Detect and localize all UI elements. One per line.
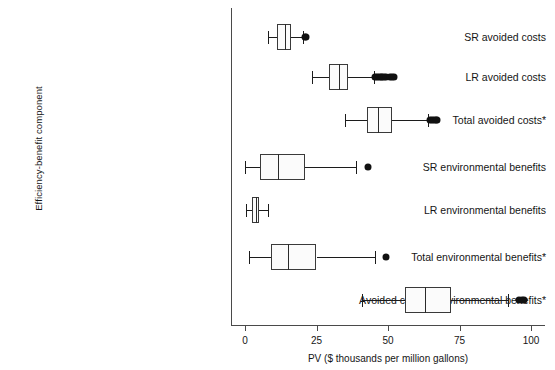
- x-axis-tick-label: 25: [311, 335, 322, 346]
- whisker-low-line: [249, 257, 271, 258]
- whisker-high-line: [348, 77, 374, 78]
- median-line: [285, 24, 286, 50]
- x-axis-tick: [460, 326, 461, 331]
- plot-area: 0255075100 PV ($ thousands per million g…: [231, 8, 545, 326]
- whisker-low-cap: [246, 204, 247, 217]
- whisker-high-line: [392, 120, 428, 121]
- x-axis-tick: [531, 326, 532, 331]
- whisker-low-cap: [312, 71, 313, 84]
- whisker-high-cap: [356, 161, 357, 174]
- whisker-high-line: [305, 167, 356, 168]
- median-line: [339, 64, 340, 90]
- outlier-point: [382, 254, 389, 261]
- whisker-high-line: [259, 210, 268, 211]
- whisker-low-line: [362, 300, 405, 301]
- whisker-high-line: [317, 257, 376, 258]
- outlier-point: [302, 34, 309, 41]
- box-iqr: [405, 287, 450, 313]
- box-plot-figure: Efficiency-benefit component SR avoided …: [0, 0, 555, 370]
- box-iqr: [271, 244, 316, 270]
- outlier-point: [364, 164, 371, 171]
- outlier-point: [434, 117, 441, 124]
- x-axis-tick: [388, 326, 389, 331]
- outlier-point: [520, 297, 527, 304]
- x-axis-title: PV ($ thousands per million gallons): [231, 353, 545, 364]
- whisker-low-line: [312, 77, 329, 78]
- whisker-high-cap: [375, 251, 376, 264]
- y-axis-title: Efficiency-benefit component: [33, 49, 44, 249]
- whisker-high-line: [451, 300, 509, 301]
- x-axis-tick: [245, 326, 246, 331]
- median-line: [425, 287, 426, 313]
- whisker-low-line: [345, 120, 366, 121]
- median-line: [256, 197, 257, 223]
- outlier-point: [390, 74, 397, 81]
- y-axis-line: [231, 8, 232, 326]
- whisker-low-line: [268, 37, 278, 38]
- median-line: [378, 107, 379, 133]
- median-line: [288, 244, 289, 270]
- whisker-low-cap: [362, 294, 363, 307]
- x-axis-tick-label: 50: [382, 335, 393, 346]
- box-iqr: [260, 154, 305, 180]
- box-iqr: [277, 24, 290, 50]
- box-iqr: [367, 107, 392, 133]
- whisker-low-cap: [245, 161, 246, 174]
- whisker-high-cap: [508, 294, 509, 307]
- whisker-low-cap: [268, 31, 269, 44]
- median-line: [278, 154, 279, 180]
- x-axis-tick: [317, 326, 318, 331]
- x-axis-tick-label: 75: [454, 335, 465, 346]
- whisker-high-cap: [268, 204, 269, 217]
- whisker-low-cap: [249, 251, 250, 264]
- whisker-low-cap: [345, 114, 346, 127]
- whisker-low-line: [245, 167, 260, 168]
- x-axis-tick-label: 100: [523, 335, 540, 346]
- x-axis-tick-label: 0: [242, 335, 248, 346]
